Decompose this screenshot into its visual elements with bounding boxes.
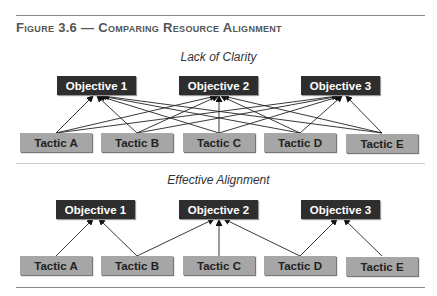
bottom-rule [16,287,425,288]
top-tactic-e: Tactic E [346,134,418,153]
top-objective-1: Objective 1 [57,76,136,95]
bottom-objective-3: Objective 3 [301,200,380,219]
bottom-tactic-b: Tactic B [101,256,173,275]
top-tactic-d: Tactic D [264,133,336,152]
middle-rule [16,163,425,164]
bottom-tactic-a: Tactic A [20,256,92,275]
top-tactic-b: Tactic B [101,133,173,152]
bottom-tactic-c: Tactic C [183,256,255,275]
top-tactic-a: Tactic A [20,133,92,152]
top-objective-2: Objective 2 [179,76,258,95]
bottom-objective-2: Objective 2 [179,200,258,219]
top-objective-3: Objective 3 [301,76,380,95]
bottom-tactic-e: Tactic E [346,257,418,276]
diagram-2-subtitle: Effective Alignment [0,173,437,187]
bottom-tactic-d: Tactic D [264,256,336,275]
bottom-objective-1: Objective 1 [56,200,135,219]
top-tactic-c: Tactic C [183,133,255,152]
